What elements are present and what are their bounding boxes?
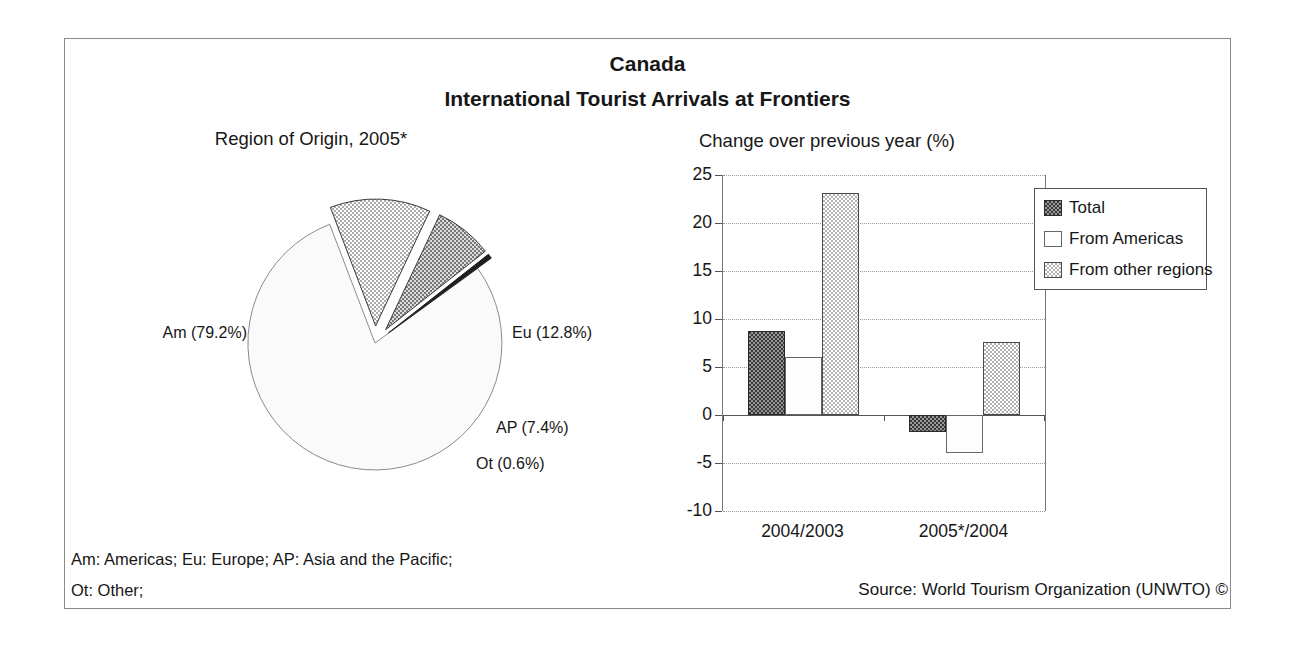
gridline-20 (723, 223, 1045, 224)
pie-label-asia-pacific: AP (7.4%) (496, 419, 569, 437)
bar-chart-title: Change over previous year (%) (627, 130, 1027, 152)
x-axis-label-2005-2004: 2005*/2004 (903, 521, 1024, 542)
gridline-15 (723, 271, 1045, 272)
bar-from-other-regions-2004-2003 (822, 193, 859, 415)
y-tick-label-20: 20 (640, 212, 712, 233)
legend-swatch-from-other-regions (1044, 262, 1062, 278)
y-tick-15 (715, 271, 722, 272)
y-tick-0 (715, 415, 722, 416)
abbreviations-line-2: Ot: Other; (71, 581, 143, 600)
legend-row-from-other-regions: From other regions (1044, 260, 1206, 280)
pie-label-other: Ot (0.6%) (476, 455, 544, 473)
y-tick-label--5: -5 (640, 452, 712, 473)
y-tick--5 (715, 463, 722, 464)
legend-row-from-americas: From Americas (1044, 229, 1206, 249)
bar-chart-legend: Total From Americas From other regions (1034, 188, 1207, 290)
bar-from-americas-2005-2004 (946, 415, 983, 453)
category-axis-tick-1 (884, 415, 885, 421)
y-tick-label-25: 25 (640, 164, 712, 185)
source-attribution: Source: World Tourism Organization (UNWT… (828, 580, 1228, 600)
figure-title: Canada (64, 52, 1231, 76)
y-tick-label-5: 5 (640, 356, 712, 377)
bar-total-2005-2004 (909, 415, 946, 432)
y-tick-10 (715, 319, 722, 320)
bar-total-2004-2003 (748, 331, 785, 416)
legend-row-total: Total (1044, 198, 1206, 218)
category-axis-tick-2 (1044, 415, 1045, 421)
legend-swatch-from-americas (1044, 231, 1062, 247)
bar-from-other-regions-2005-2004 (983, 342, 1020, 415)
category-axis-tick-0 (723, 415, 724, 421)
figure-subtitle: International Tourist Arrivals at Fronti… (64, 87, 1231, 111)
gridline--5 (723, 463, 1045, 464)
y-tick--10 (715, 511, 722, 512)
x-axis-label-2004-2003: 2004/2003 (742, 521, 863, 542)
legend-label-total: Total (1069, 198, 1105, 218)
legend-swatch-total (1044, 200, 1062, 216)
legend-label-from-other-regions: From other regions (1069, 260, 1213, 280)
bar-chart-plot-area (722, 175, 1046, 511)
pie-label-americas: Am (79.2%) (95, 324, 247, 342)
gridline--10 (723, 511, 1045, 512)
abbreviations-line-1: Am: Americas; Eu: Europe; AP: Asia and t… (71, 550, 453, 569)
legend-label-from-americas: From Americas (1069, 229, 1183, 249)
scanned-figure-page: Canada International Tourist Arrivals at… (0, 0, 1290, 649)
y-tick-20 (715, 223, 722, 224)
gridline-10 (723, 319, 1045, 320)
pie-chart-title: Region of Origin, 2005* (111, 128, 511, 150)
pie-label-europe: Eu (12.8%) (512, 324, 592, 342)
y-tick-label-10: 10 (640, 308, 712, 329)
y-tick-label-0: 0 (640, 404, 712, 425)
gridline-25 (723, 175, 1045, 176)
y-tick-25 (715, 175, 722, 176)
y-tick-label--10: -10 (640, 500, 712, 521)
y-tick-label-15: 15 (640, 260, 712, 281)
bar-from-americas-2004-2003 (785, 357, 822, 415)
y-tick-5 (715, 367, 722, 368)
